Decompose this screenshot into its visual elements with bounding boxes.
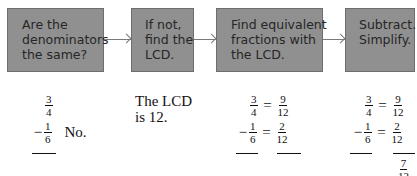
example1-bottom-fraction: − 16 No. [32, 120, 87, 145]
step-box-find-lcd: If not, find the LCD. [131, 8, 194, 72]
example4-top-equation: 34 = 912 [365, 93, 404, 118]
step-text: denominators [22, 32, 103, 47]
fraction: 34 [250, 93, 258, 118]
lcd-statement: The LCD is 12. [135, 93, 192, 125]
step-text: LCD. [145, 47, 193, 62]
subtraction-rule [32, 153, 56, 154]
step-text: the same? [22, 47, 103, 62]
step-text: Are the [22, 17, 103, 32]
subtraction-rule [236, 153, 258, 154]
fraction: 34 [365, 93, 373, 118]
subtraction-rule [393, 153, 415, 154]
step-text: find the [145, 32, 193, 47]
fraction: 16 [44, 120, 52, 145]
subtraction-rule [277, 153, 301, 154]
fraction: 212 [277, 120, 288, 145]
example4-result-fraction: 712 [398, 157, 409, 176]
example4-bottom-equation: − 16 = 212 [352, 120, 403, 145]
step-box-equivalent-fractions: Find equivalent fractions with the LCD. [216, 8, 323, 72]
fraction: 34 [45, 93, 53, 118]
example3-top-equation: 34 = 912 [250, 93, 289, 118]
fraction: 16 [364, 120, 372, 145]
answer-text: No. [65, 124, 87, 141]
step-text: fractions with [231, 32, 322, 47]
step-text: Simplify. [359, 32, 414, 47]
arrow-icon [323, 39, 345, 40]
step-text: the LCD. [231, 47, 322, 62]
subtraction-rule [350, 153, 372, 154]
fraction: 16 [249, 120, 257, 145]
example3-bottom-equation: − 16 = 212 [237, 120, 288, 145]
fraction: 912 [393, 93, 404, 118]
step-text: Find equivalent [231, 17, 322, 32]
arrow-icon [194, 39, 216, 40]
fraction: 212 [392, 120, 403, 145]
step-text: If not, [145, 17, 193, 32]
step-box-subtract-simplify: Subtract. Simplify. [345, 8, 415, 72]
arrow-icon [104, 39, 131, 40]
fraction: 712 [398, 157, 409, 176]
step-box-compare-denominators: Are the denominators the same? [7, 8, 104, 72]
example1-top-fraction: 34 [45, 93, 53, 118]
fraction: 912 [278, 93, 289, 118]
step-text: Subtract. [359, 17, 414, 32]
